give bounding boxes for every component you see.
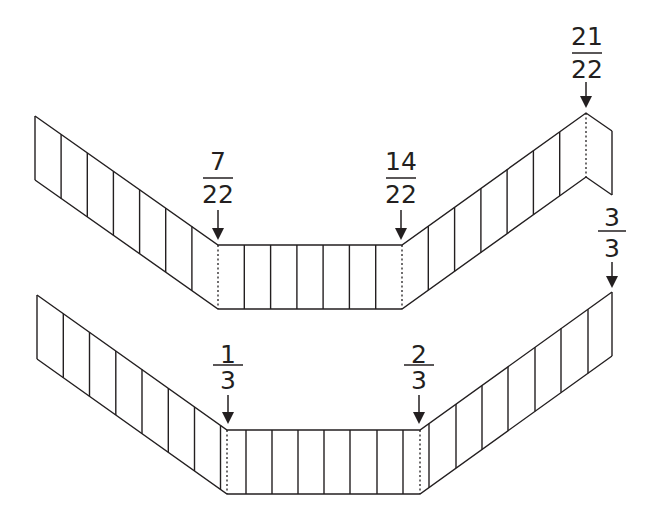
arrow-head-icon <box>413 412 425 424</box>
label-3-3-numerator: 3 <box>604 203 620 232</box>
label-14-22-denominator: 22 <box>385 180 417 209</box>
bottom-strip <box>37 292 612 494</box>
folded-strips-diagram: 7 22 14 22 21 22 3 3 1 3 2 <box>0 0 651 517</box>
label-2-3: 2 3 <box>404 340 434 424</box>
top-strip-upper-edge <box>35 113 612 245</box>
label-1-3-denominator: 3 <box>220 366 236 395</box>
bottom-strip-right-cells <box>429 309 588 487</box>
arrow-head-icon <box>395 228 407 240</box>
bottom-strip-middle-cells <box>246 430 403 494</box>
label-7-22: 7 22 <box>202 147 234 240</box>
arrow-head-icon <box>580 96 592 108</box>
label-14-22-numerator: 14 <box>385 147 417 176</box>
label-3-3: 3 3 <box>598 203 626 288</box>
bottom-strip-left-cells <box>63 314 220 490</box>
arrow-head-icon <box>212 228 224 240</box>
label-1-3: 1 3 <box>213 340 243 424</box>
label-21-22-numerator: 21 <box>571 22 603 51</box>
label-21-22: 21 22 <box>571 22 603 108</box>
arrow-head-icon <box>606 276 618 288</box>
label-3-3-denominator: 3 <box>604 234 620 263</box>
top-strip <box>35 113 612 309</box>
label-21-22-denominator: 22 <box>571 55 603 84</box>
label-7-22-denominator: 22 <box>202 180 234 209</box>
top-strip-right-cells <box>428 132 559 290</box>
label-14-22: 14 22 <box>385 147 417 240</box>
top-strip-middle-cells <box>244 245 375 309</box>
label-2-3-denominator: 3 <box>411 366 427 395</box>
label-7-22-numerator: 7 <box>210 147 226 176</box>
bottom-strip-upper-edge <box>37 292 612 430</box>
arrow-head-icon <box>222 412 234 424</box>
